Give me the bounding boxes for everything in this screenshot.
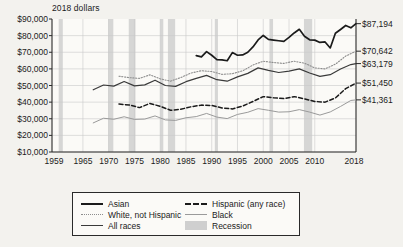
legend-label: Hispanic (any race) xyxy=(212,199,285,209)
end-label-asian: $87,194 xyxy=(362,19,393,29)
end-label-all-races: $63,179 xyxy=(362,59,393,69)
end-label-white-not-hispanic: $70,642 xyxy=(362,46,393,56)
legend-item-hispanic-any-race[interactable]: Hispanic (any race) xyxy=(185,198,301,209)
legend-label: Recession xyxy=(212,221,252,231)
legend-item-asian[interactable]: Asian xyxy=(81,198,185,209)
legend-label: All races xyxy=(108,221,141,231)
legend-label: Black xyxy=(212,210,233,220)
legend-label: Asian xyxy=(108,199,129,209)
legend-swatch-solid-light-icon xyxy=(185,211,207,219)
legend-swatch-solid-thick-icon xyxy=(81,200,103,208)
chart-legend: AsianHispanic (any race)White, not Hispa… xyxy=(72,192,300,236)
end-label-hispanic-any-race: $51,450 xyxy=(362,78,393,88)
legend-swatch-dotted-icon xyxy=(81,211,103,219)
chart-figure: 2018 dollars $10,000$20,000$30,000$40,00… xyxy=(0,0,403,247)
legend-item-white-not-hispanic[interactable]: White, not Hispanic xyxy=(81,209,185,220)
legend-swatch-band-icon xyxy=(185,222,207,230)
legend-item-all-races[interactable]: All races xyxy=(81,220,185,231)
legend-item-black[interactable]: Black xyxy=(185,209,301,220)
legend-label: White, not Hispanic xyxy=(108,210,181,220)
legend-swatch-solid-icon xyxy=(81,222,103,230)
end-label-black: $41,361 xyxy=(362,95,393,105)
legend-swatch-dashed-icon xyxy=(185,200,207,208)
legend-item-recession[interactable]: Recession xyxy=(185,220,301,231)
